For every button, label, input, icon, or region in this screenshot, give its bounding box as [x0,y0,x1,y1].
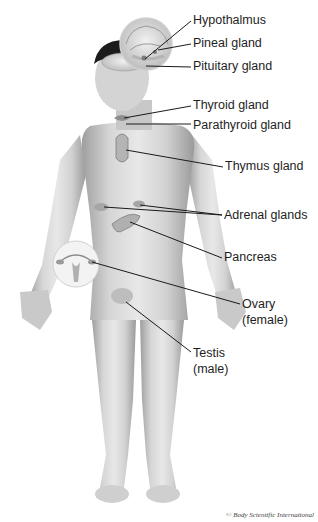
label-testis: Testis [193,346,225,361]
label-hypothalmus: Hypothalmus [193,13,266,28]
label-pituitary-gland: Pituitary gland [193,59,272,74]
adrenal-gland-right-icon [133,201,145,208]
label-pancreas: Pancreas [224,250,277,265]
testis-icon [111,288,133,304]
ovary-inset-icon [53,241,99,287]
label-testis-note: (male) [193,362,228,377]
label-thyroid-gland: Thyroid gland [193,98,269,113]
copyright-credit: © Body Scientific International [226,511,314,519]
thymus-gland-icon [116,134,128,162]
legs [92,320,184,503]
label-pineal-gland: Pineal gland [193,36,262,51]
label-ovary: Ovary [242,297,275,312]
label-ovary-note: (female) [242,313,288,328]
label-adrenal-glands: Adrenal glands [224,208,307,223]
label-parathyroid-gland: Parathyroid gland [193,118,291,133]
brain-inset-icon [120,18,172,70]
label-thymus-gland: Thymus gland [225,159,304,174]
